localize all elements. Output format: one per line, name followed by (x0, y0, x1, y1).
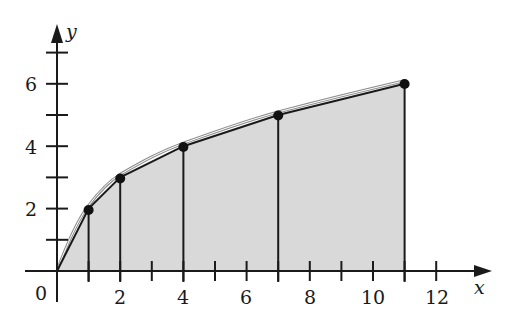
origin-label: 0 (35, 282, 47, 304)
y-axis-arrow-icon (51, 24, 63, 43)
point-2-3 (115, 174, 125, 184)
x-tick-label-2: 2 (114, 286, 126, 308)
point-11-6 (400, 79, 410, 89)
chart-canvas: 0 2 4 6 8 10 12 x 2 4 6 y (0, 0, 507, 324)
y-tick-label-2: 2 (25, 198, 37, 220)
y-tick-label-4: 4 (25, 136, 37, 158)
y-axis-label: y (65, 20, 77, 42)
point-4-4 (178, 142, 188, 152)
shaded-area (57, 84, 405, 271)
point-7-5 (273, 111, 283, 121)
x-tick-label-12: 12 (425, 286, 449, 308)
y-tick-label-6: 6 (25, 73, 37, 95)
x-tick-label-6: 6 (240, 286, 252, 308)
x-axis-label: x (474, 276, 485, 298)
point-1-2 (84, 205, 94, 215)
x-tick-label-4: 4 (177, 286, 189, 308)
x-tick-label-8: 8 (304, 286, 316, 308)
x-tick-label-10: 10 (361, 286, 385, 308)
